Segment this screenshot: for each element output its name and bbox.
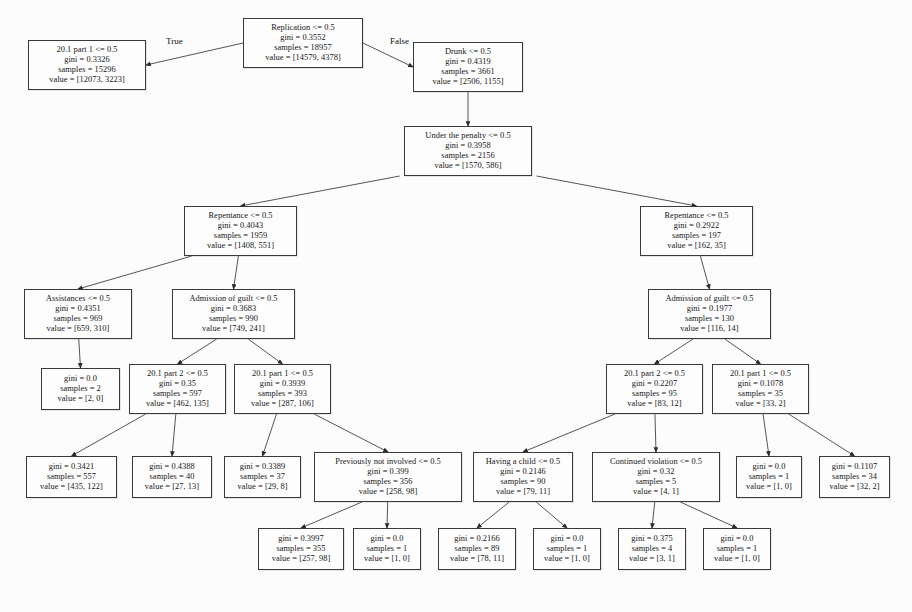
- node-value-text: value = [1570, 586]: [434, 161, 501, 171]
- tree-edge: [700, 256, 709, 289]
- node-value-text: value = [462, 135]: [146, 399, 209, 409]
- node-samples-text: samples = 18957: [274, 43, 332, 53]
- tree-decision-node: 20.1 part 1 <= 0.5gini = 0.3939samples =…: [234, 364, 331, 414]
- node-feature-text: 20.1 part 1 <= 0.5: [252, 369, 313, 379]
- node-value-text: value = [33, 2]: [735, 399, 785, 409]
- node-gini-text: gini = 0.3939: [260, 379, 306, 389]
- node-value-text: value = [83, 12]: [627, 399, 681, 409]
- node-samples-text: samples = 393: [258, 389, 307, 399]
- tree-decision-node: 20.1 part 2 <= 0.5gini = 0.2207samples =…: [606, 364, 703, 414]
- tree-leaf-node: gini = 0.0samples = 1value = [1, 0]: [353, 528, 421, 570]
- node-samples-text: samples = 37: [240, 472, 285, 482]
- tree-leaf-node: gini = 0.4388samples = 40value = [27, 13…: [132, 456, 212, 498]
- node-samples-text: samples = 3661: [441, 67, 494, 77]
- node-value-text: value = [258, 98]: [359, 487, 418, 497]
- node-gini-text: gini = 0.35: [159, 379, 196, 389]
- node-gini-text: gini = 0.375: [631, 534, 672, 544]
- node-gini-text: gini = 0.2146: [500, 467, 546, 477]
- node-samples-text: samples = 4: [632, 544, 673, 554]
- node-feature-text: Continued violation <= 0.5: [610, 457, 702, 467]
- node-samples-text: samples = 35: [738, 389, 783, 399]
- node-gini-text: gini = 0.32: [637, 467, 674, 477]
- node-feature-text: Replication <= 0.5: [271, 23, 335, 33]
- node-value-text: value = [659, 310]: [47, 324, 110, 334]
- node-gini-text: gini = 0.3683: [211, 304, 257, 314]
- node-value-text: value = [32, 2]: [829, 482, 879, 492]
- node-gini-text: gini = 0.0: [64, 374, 97, 384]
- tree-edge: [314, 414, 388, 452]
- node-samples-text: samples = 356: [363, 477, 412, 487]
- node-samples-text: samples = 5: [636, 477, 677, 487]
- node-feature-text: Under the penalty <= 0.5: [425, 131, 510, 141]
- tree-edge: [537, 176, 697, 206]
- node-gini-text: gini = 0.2166: [454, 534, 500, 544]
- tree-leaf-node: gini = 0.0samples = 1value = [1, 0]: [533, 528, 601, 570]
- node-feature-text: 20.1 part 1 <= 0.5: [730, 369, 791, 379]
- node-value-text: value = [116, 14]: [680, 324, 738, 334]
- node-value-text: value = [257, 98]: [272, 554, 331, 564]
- node-gini-text: gini = 0.0: [551, 534, 584, 544]
- node-value-text: value = [162, 35]: [667, 241, 726, 251]
- tree-decision-node: Repentance <= 0.5gini = 0.2922samples = …: [640, 206, 753, 256]
- tree-edge: [172, 414, 176, 456]
- node-samples-text: samples = 557: [47, 472, 96, 482]
- node-samples-text: samples = 34: [832, 472, 877, 482]
- tree-edge: [523, 414, 615, 452]
- tree-edge: [178, 339, 217, 364]
- decision-tree-diagram: Replication <= 0.5gini = 0.3552samples =…: [0, 0, 912, 612]
- node-gini-text: gini = 0.4351: [55, 304, 101, 314]
- node-samples-text: samples = 969: [53, 314, 102, 324]
- tree-edge: [248, 339, 282, 364]
- node-value-text: value = [78, 11]: [450, 554, 504, 564]
- tree-edge: [146, 43, 243, 65]
- node-feature-text: Drunk <= 0.5: [445, 47, 491, 57]
- tree-edge: [234, 256, 239, 289]
- node-gini-text: gini = 0.3552: [280, 33, 326, 43]
- tree-edge: [652, 502, 655, 528]
- tree-edge: [387, 502, 388, 528]
- node-value-text: value = [3, 1]: [629, 554, 675, 564]
- node-samples-text: samples = 1: [547, 544, 588, 554]
- node-feature-text: Admission of guilt <= 0.5: [665, 294, 753, 304]
- tree-decision-node: 20.1 part 1 <= 0.5gini = 0.1078samples =…: [712, 364, 809, 414]
- node-feature-text: 20.1 part 2 <= 0.5: [624, 369, 685, 379]
- edge-label: True: [166, 36, 183, 46]
- tree-decision-node: 20.1 part 1 <= 0.5gini = 0.3326samples =…: [28, 40, 146, 90]
- node-value-text: value = [12073, 3223]: [49, 75, 125, 85]
- tree-decision-node: Assistances <= 0.5gini = 0.4351samples =…: [24, 289, 132, 339]
- node-value-text: value = [435, 122]: [40, 482, 103, 492]
- node-value-text: value = [79, 11]: [496, 487, 550, 497]
- tree-edge: [72, 414, 146, 456]
- tree-decision-node: Previously not involved <= 0.5gini = 0.3…: [314, 452, 462, 502]
- node-samples-text: samples = 597: [153, 389, 202, 399]
- tree-decision-node: Having a child <= 0.5gini = 0.2146sample…: [473, 452, 573, 502]
- node-gini-text: gini = 0.4319: [445, 57, 491, 67]
- node-gini-text: gini = 0.3958: [445, 141, 491, 151]
- node-samples-text: samples = 89: [455, 544, 500, 554]
- node-samples-text: samples = 90: [501, 477, 546, 487]
- tree-leaf-node: gini = 0.2166samples = 89value = [78, 11…: [438, 528, 516, 570]
- node-gini-text: gini = 0.2207: [632, 379, 678, 389]
- node-gini-text: gini = 0.0: [753, 462, 786, 472]
- node-feature-text: Assistances <= 0.5: [46, 294, 110, 304]
- tree-edge: [78, 256, 192, 289]
- node-gini-text: gini = 0.4043: [218, 221, 264, 231]
- node-samples-text: samples = 355: [276, 544, 325, 554]
- node-value-text: value = [1, 0]: [544, 554, 590, 564]
- tree-edge: [655, 339, 694, 364]
- node-value-text: value = [1, 0]: [714, 554, 760, 564]
- tree-decision-node: Admission of guilt <= 0.5gini = 0.1977sa…: [648, 289, 771, 339]
- node-value-text: value = [1, 0]: [364, 554, 410, 564]
- node-value-text: value = [2, 0]: [58, 394, 104, 404]
- tree-decision-node: Drunk <= 0.5gini = 0.4319samples = 3661v…: [413, 42, 523, 92]
- node-feature-text: Repentance <= 0.5: [664, 211, 728, 221]
- node-value-text: value = [1, 0]: [746, 482, 792, 492]
- tree-leaf-node: gini = 0.3389samples = 37value = [29, 8]: [224, 456, 301, 498]
- tree-decision-node: Replication <= 0.5gini = 0.3552samples =…: [243, 18, 363, 68]
- node-gini-text: gini = 0.1107: [832, 462, 877, 472]
- edge-label: False: [390, 36, 409, 46]
- node-feature-text: Having a child <= 0.5: [486, 457, 560, 467]
- node-value-text: value = [749, 241]: [202, 324, 265, 334]
- node-gini-text: gini = 0.0: [371, 534, 404, 544]
- tree-edge: [655, 414, 656, 452]
